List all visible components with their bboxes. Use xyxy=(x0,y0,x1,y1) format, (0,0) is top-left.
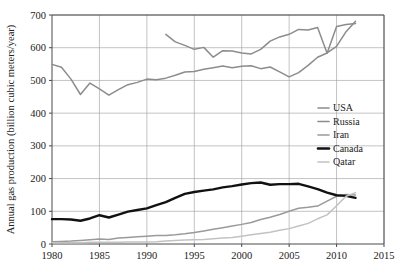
legend-label-iran[interactable]: Iran xyxy=(333,129,349,140)
x-tick-label: 2010 xyxy=(326,250,347,261)
y-tick-label: 100 xyxy=(30,206,46,217)
y-tick-label: 300 xyxy=(30,140,46,151)
y-tick-label: 600 xyxy=(30,42,46,53)
y-axis-label: Annual gas production (billion cubic met… xyxy=(5,24,17,234)
x-tick-label: 2005 xyxy=(279,250,300,261)
legend-label-canada[interactable]: Canada xyxy=(333,143,364,154)
chart-figure: 0100200300400500600700198019851990199520… xyxy=(0,0,409,274)
y-tick-label: 500 xyxy=(30,75,46,86)
y-tick-label: 0 xyxy=(41,239,46,250)
line-chart: 0100200300400500600700198019851990199520… xyxy=(0,0,409,274)
legend-label-usa[interactable]: USA xyxy=(333,102,354,113)
y-tick-label: 200 xyxy=(30,173,46,184)
x-tick-label: 1990 xyxy=(136,250,157,261)
x-tick-label: 1995 xyxy=(184,250,205,261)
legend-label-qatar[interactable]: Qatar xyxy=(333,156,356,167)
legend-label-russia[interactable]: Russia xyxy=(333,116,360,127)
y-tick-label: 400 xyxy=(30,108,46,119)
x-tick-label: 2000 xyxy=(231,250,252,261)
y-tick-label: 700 xyxy=(30,10,46,21)
x-tick-label: 1985 xyxy=(89,250,110,261)
y-axis-title: Annual gas production (billion cubic met… xyxy=(5,24,17,234)
x-tick-label: 1980 xyxy=(42,250,63,261)
x-tick-label: 2015 xyxy=(374,250,395,261)
